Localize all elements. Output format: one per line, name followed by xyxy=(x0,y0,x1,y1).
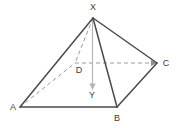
edge-XD-dashed xyxy=(75,18,93,63)
square-pyramid-svg: X A B C D Y xyxy=(0,0,178,128)
edge-DA-dashed xyxy=(20,63,75,107)
vertex-label-A: A xyxy=(10,102,16,112)
vertex-label-D: D xyxy=(76,65,83,75)
geometry-figure-container: X A B C D Y xyxy=(0,0,178,128)
vertex-label-C: C xyxy=(163,58,170,68)
edge-BC-solid xyxy=(117,63,157,107)
height-arrowhead-Y xyxy=(89,84,95,91)
vertex-label-Y: Y xyxy=(89,90,95,100)
vertex-label-B: B xyxy=(114,113,120,123)
vertex-label-X: X xyxy=(90,2,96,12)
